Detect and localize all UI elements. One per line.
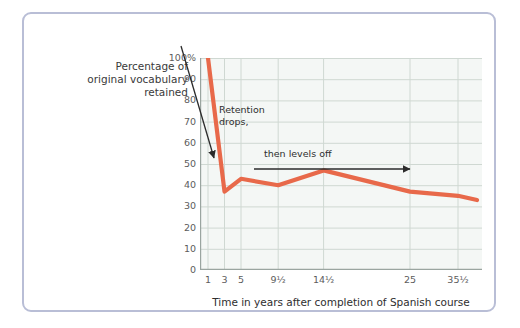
x-tick-5: 5 bbox=[238, 275, 244, 285]
x-tick-14h: 14½ bbox=[313, 275, 334, 285]
x-tick-9h: 9½ bbox=[271, 275, 286, 285]
y-tick-40: 40 bbox=[156, 180, 196, 190]
y-tick-0: 0 bbox=[156, 265, 196, 275]
y-axis-tick-labels: 0 10 20 30 40 50 60 70 80 90 100% bbox=[152, 58, 196, 270]
y-tick-100: 100% bbox=[156, 53, 196, 63]
x-tick-1: 1 bbox=[205, 275, 211, 285]
annotation-retention-drops-line-1: Retention bbox=[219, 104, 265, 116]
figure-frame: Percentage of original vocabulary retain… bbox=[22, 12, 496, 312]
y-tick-10: 10 bbox=[156, 244, 196, 254]
y-tick-80: 80 bbox=[156, 96, 196, 106]
x-axis-title: Time in years after completion of Spanis… bbox=[200, 296, 482, 308]
y-tick-20: 20 bbox=[156, 223, 196, 233]
x-axis-tick-labels: 1 3 5 9½ 14½ 25 35½ 49½ bbox=[200, 275, 482, 291]
y-tick-70: 70 bbox=[156, 117, 196, 127]
chart-svg bbox=[200, 58, 482, 270]
plot-area bbox=[200, 58, 482, 270]
annotation-retention-drops-line-2: drops, bbox=[219, 116, 265, 128]
annotation-levels-off: then levels off bbox=[264, 148, 332, 160]
y-tick-60: 60 bbox=[156, 138, 196, 148]
x-tick-35h: 35½ bbox=[447, 275, 468, 285]
y-tick-30: 30 bbox=[156, 202, 196, 212]
x-tick-25: 25 bbox=[404, 275, 416, 285]
y-tick-50: 50 bbox=[156, 159, 196, 169]
x-tick-3: 3 bbox=[221, 275, 227, 285]
horizontal-gridlines bbox=[200, 59, 482, 250]
y-tick-90: 90 bbox=[156, 74, 196, 84]
annotation-retention-drops: Retention drops, bbox=[219, 104, 265, 127]
